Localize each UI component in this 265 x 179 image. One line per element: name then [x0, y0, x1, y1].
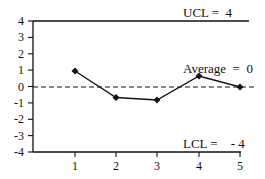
x-tick-label: 3	[154, 159, 160, 173]
y-tick-label: -2	[14, 112, 24, 126]
y-tick-label: 2	[18, 47, 24, 61]
x-tick-label: 4	[196, 159, 202, 173]
x-ticks	[75, 152, 240, 157]
y-tick-label: -1	[14, 96, 24, 110]
y-tick-label: 3	[18, 30, 24, 44]
y-tick-label: -4	[14, 145, 24, 159]
diamond-marker	[72, 68, 79, 75]
diamond-marker	[237, 84, 244, 91]
lcl-label: LCL = - 4	[183, 136, 245, 151]
y-ticks	[28, 21, 33, 152]
control-chart: 4 3 2 1 0 -1 -2 -3 -4 1 2 3 4 5 UCL = 4 …	[0, 0, 265, 179]
ucl-label: UCL = 4	[183, 5, 233, 20]
x-tick-label: 1	[72, 159, 78, 173]
average-label: Average = 0	[183, 61, 253, 76]
y-tick-label: 0	[18, 80, 24, 94]
y-tick-labels: 4 3 2 1 0 -1 -2 -3 -4	[14, 14, 24, 159]
diamond-marker	[113, 94, 120, 101]
x-tick-labels: 1 2 3 4 5	[72, 159, 243, 173]
y-tick-label: -3	[14, 129, 24, 143]
y-tick-label: 1	[18, 63, 24, 77]
x-tick-label: 5	[237, 159, 243, 173]
diamond-marker	[154, 97, 161, 104]
y-tick-label: 4	[18, 14, 24, 28]
x-tick-label: 2	[113, 159, 119, 173]
